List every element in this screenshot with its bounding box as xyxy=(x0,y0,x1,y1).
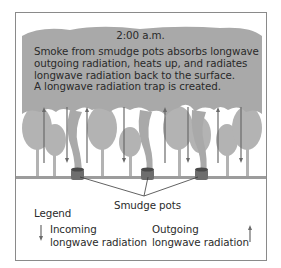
legend-incoming-label: Incoming longwave radiation xyxy=(50,223,147,249)
legend-outgoing-label: Outgoing longwave radiation xyxy=(152,223,249,249)
legend-incoming-line2: longwave radiation xyxy=(50,236,147,249)
legend-outgoing-line1: Outgoing xyxy=(152,223,249,236)
pot-leader-lines xyxy=(80,177,198,196)
caption-line: A longwave radiation trap is created. xyxy=(34,80,259,92)
caption-line: longwave radiation back to the surface. xyxy=(34,69,259,81)
time-label: 2:00 a.m. xyxy=(0,29,281,41)
caption-line: outgoing radiation, heats up, and radiat… xyxy=(34,57,259,69)
legend-outgoing-line2: longwave radiation xyxy=(152,236,249,249)
caption: Smoke from smudge pots absorbs longwave … xyxy=(34,45,259,92)
caption-line: Smoke from smudge pots absorbs longwave xyxy=(34,45,259,57)
smudge-pots-label: Smudge pots xyxy=(114,199,181,211)
down-arrow-icon xyxy=(39,225,43,241)
smudge-pot xyxy=(71,168,84,181)
smudge-pot xyxy=(195,168,208,181)
legend-incoming-line1: Incoming xyxy=(50,223,147,236)
legend-title: Legend xyxy=(34,207,71,219)
